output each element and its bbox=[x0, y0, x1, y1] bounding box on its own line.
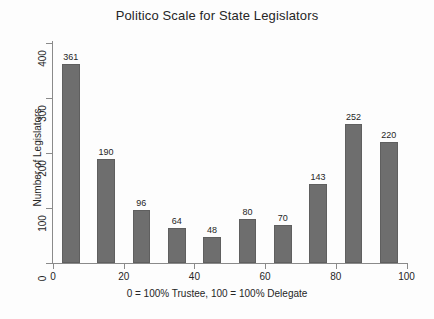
x-tick-label: 60 bbox=[245, 271, 285, 282]
x-tick-mark bbox=[194, 264, 195, 269]
x-tick-label: 80 bbox=[316, 271, 356, 282]
x-tick-mark bbox=[53, 264, 54, 269]
y-tick-label: 100 bbox=[37, 207, 48, 241]
bar bbox=[239, 219, 257, 263]
y-tick-label: 400 bbox=[37, 42, 48, 76]
bar bbox=[97, 159, 115, 264]
bar-value-label: 361 bbox=[51, 52, 91, 62]
x-tick-label: 40 bbox=[174, 271, 214, 282]
bar-value-label: 190 bbox=[86, 147, 126, 157]
x-tick-mark bbox=[124, 264, 125, 269]
x-tick-label: 0 bbox=[33, 271, 73, 282]
x-tick-label: 20 bbox=[104, 271, 144, 282]
bar bbox=[380, 142, 398, 263]
x-tick-label: 100 bbox=[387, 271, 427, 282]
bar bbox=[274, 225, 292, 264]
bar bbox=[345, 124, 363, 263]
bar bbox=[133, 210, 151, 263]
bar bbox=[309, 184, 327, 263]
bar-value-label: 80 bbox=[227, 207, 267, 217]
chart-figure: Politico Scale for State Legislators Num… bbox=[0, 0, 434, 319]
y-tick-label: 200 bbox=[37, 152, 48, 186]
x-tick-mark bbox=[407, 264, 408, 269]
bar-value-label: 252 bbox=[333, 112, 373, 122]
plot-area: 3611909664488070143252220 bbox=[53, 43, 407, 263]
bar-value-label: 143 bbox=[298, 172, 338, 182]
bar-value-label: 220 bbox=[369, 130, 409, 140]
bar-value-label: 96 bbox=[121, 198, 161, 208]
bar-value-label: 48 bbox=[192, 225, 232, 235]
bar bbox=[203, 237, 221, 263]
bar bbox=[62, 64, 80, 263]
x-tick-mark bbox=[265, 264, 266, 269]
bar-value-label: 70 bbox=[263, 213, 303, 223]
bar-value-label: 64 bbox=[157, 216, 197, 226]
bar bbox=[168, 228, 186, 263]
y-tick-label: 300 bbox=[37, 97, 48, 131]
x-axis-label: 0 = 100% Trustee, 100 = 100% Delegate bbox=[0, 288, 434, 299]
x-axis-line bbox=[52, 263, 408, 264]
page-title: Politico Scale for State Legislators bbox=[0, 8, 434, 23]
x-tick-mark bbox=[336, 264, 337, 269]
